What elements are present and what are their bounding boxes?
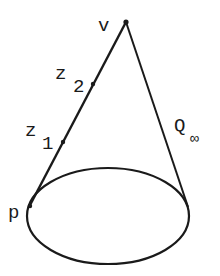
left-generator-line [29, 22, 126, 207]
cone-diagram: v z 2 z 1 p Q ∞ [0, 0, 220, 276]
z2-subscript: 2 [73, 76, 84, 98]
z1-label-main: z [25, 120, 36, 142]
point-z1 [61, 140, 65, 144]
z1-subscript: 1 [42, 133, 53, 155]
vertex-point [123, 19, 128, 24]
q-subscript: ∞ [190, 131, 199, 148]
base-ellipse [27, 168, 189, 264]
z2-label-main: z [55, 63, 66, 85]
z2-label: z [55, 63, 66, 85]
p-label: p [8, 202, 19, 224]
q-label: Q [174, 115, 185, 137]
point-p [28, 204, 32, 208]
vertex-label: v [98, 15, 109, 37]
point-z2 [91, 82, 95, 86]
z1-label: z [25, 120, 36, 142]
